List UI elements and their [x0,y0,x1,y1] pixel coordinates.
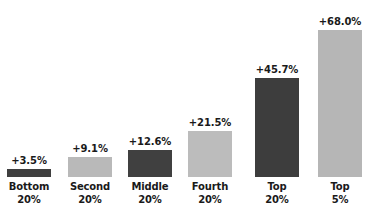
bar-category-line2: 20% [244,194,310,207]
bar-category-line2: 20% [0,194,62,207]
bar-value-label: +68.0% [319,16,361,27]
bar-category-line1: Bottom [0,181,62,194]
bar-category-line2: 5% [307,194,369,207]
bar-group[interactable]: +68.0% [318,16,362,177]
bar-value-label: +45.7% [256,64,298,75]
bar-group[interactable]: +21.5% [188,117,232,177]
bar-category-label: Top 20% [244,181,310,206]
bar-chart: +3.5% Bottom 20% +9.1% Second 20% +12.6%… [0,0,369,221]
bar-category-label: Middle 20% [117,181,183,206]
plot-area: +3.5% Bottom 20% +9.1% Second 20% +12.6%… [0,0,369,221]
bar-category-line1: Middle [117,181,183,194]
bar-rect[interactable] [7,169,51,177]
bar-category-line1: Second [57,181,123,194]
bar-group[interactable]: +45.7% [255,64,299,177]
bar-category-line1: Top [307,181,369,194]
bar-rect[interactable] [68,157,112,177]
bar-category-line2: 20% [177,194,243,207]
bar-rect[interactable] [128,150,172,177]
bar-group[interactable]: +3.5% [7,155,51,177]
bar-rect[interactable] [318,30,362,177]
bar-category-label: Fourth 20% [177,181,243,206]
bar-group[interactable]: +12.6% [128,136,172,177]
bar-category-line2: 20% [57,194,123,207]
bar-value-label: +12.6% [129,136,171,147]
bar-rect[interactable] [255,78,299,177]
bar-value-label: +9.1% [72,143,108,154]
bar-category-label: Second 20% [57,181,123,206]
bar-rect[interactable] [188,131,232,177]
bar-category-line2: 20% [117,194,183,207]
bar-value-label: +3.5% [11,155,47,166]
bar-group[interactable]: +9.1% [68,143,112,177]
bar-category-line1: Top [244,181,310,194]
bar-category-label: Bottom 20% [0,181,62,206]
bar-category-label: Top 5% [307,181,369,206]
bar-value-label: +21.5% [189,117,231,128]
bar-category-line1: Fourth [177,181,243,194]
